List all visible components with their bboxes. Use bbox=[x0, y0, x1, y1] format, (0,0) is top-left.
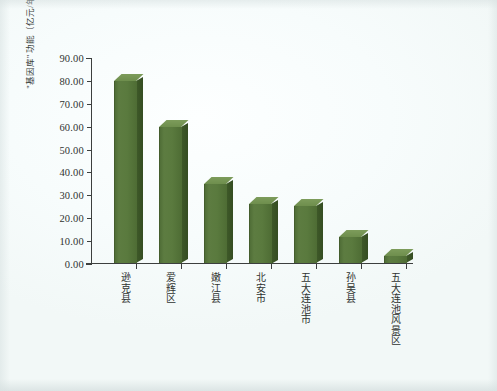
bar[interactable] bbox=[294, 206, 316, 263]
y-axis-tick bbox=[87, 81, 91, 82]
bar[interactable] bbox=[339, 237, 361, 263]
y-axis-tick bbox=[87, 150, 91, 151]
y-axis-tick-label: 20.00 bbox=[59, 213, 84, 224]
bar-side-face bbox=[271, 199, 278, 263]
y-axis-tick-label: 40.00 bbox=[59, 167, 84, 178]
y-axis-tick-label: 10.00 bbox=[59, 236, 84, 247]
x-axis-tick bbox=[181, 264, 182, 269]
x-axis-tick bbox=[271, 264, 272, 269]
x-axis-category-label: 逊克县 bbox=[119, 272, 131, 304]
y-axis-tick bbox=[86, 58, 92, 59]
bar-front-face bbox=[249, 204, 272, 264]
y-axis-tick bbox=[87, 195, 91, 196]
x-axis-category-label: 嫩江县 bbox=[209, 272, 221, 304]
y-axis-tick-label: 90.00 bbox=[59, 53, 84, 64]
y-axis-tick bbox=[86, 264, 92, 265]
y-axis-tick-label: 0.00 bbox=[65, 259, 84, 270]
x-axis-tick bbox=[226, 264, 227, 269]
bar[interactable] bbox=[114, 81, 136, 263]
bar[interactable] bbox=[159, 127, 181, 263]
bar-front-face bbox=[294, 206, 317, 263]
y-axis-tick bbox=[87, 127, 91, 128]
bar-front-face bbox=[204, 184, 227, 263]
y-axis-tick-label: 30.00 bbox=[59, 190, 84, 201]
y-axis-tick-label: 60.00 bbox=[59, 121, 84, 132]
bar-front-face bbox=[159, 127, 182, 263]
x-axis-tick bbox=[361, 264, 362, 269]
bar-front-face bbox=[384, 256, 407, 263]
bar[interactable] bbox=[384, 256, 406, 263]
bar-front-face bbox=[114, 81, 137, 263]
y-axis-title: "基因库" 功能（亿元/年） bbox=[22, 0, 38, 108]
x-axis-tick bbox=[136, 264, 137, 269]
bar-side-face bbox=[226, 180, 233, 263]
x-axis-category-label: 五大连池市 bbox=[299, 272, 311, 325]
bar-side-face bbox=[316, 202, 323, 263]
y-axis-tick bbox=[87, 218, 91, 219]
bar-chart: "基因库" 功能（亿元/年） 90.00 80.00 70.00 60.00 bbox=[0, 0, 497, 391]
y-axis-tick-label: 80.00 bbox=[59, 75, 84, 86]
x-axis-tick bbox=[406, 264, 407, 269]
bar-side-face bbox=[181, 123, 188, 263]
x-axis-category-label: 五大连池风景区 bbox=[389, 272, 401, 346]
y-axis-tick bbox=[87, 104, 91, 105]
y-axis-line bbox=[91, 58, 92, 264]
bar-side-face bbox=[136, 77, 143, 263]
x-axis-category-label: 爱辉区 bbox=[164, 272, 176, 304]
bar[interactable] bbox=[249, 204, 271, 264]
x-axis-category-label: 北安市 bbox=[254, 272, 266, 304]
x-axis-tick bbox=[316, 264, 317, 269]
plot-area: 90.00 80.00 70.00 60.00 50.00 40.00 bbox=[91, 58, 411, 264]
y-axis-tick-label: 70.00 bbox=[59, 98, 84, 109]
x-axis-category-label: 孙吴县 bbox=[344, 272, 356, 304]
scanned-page: "基因库" 功能（亿元/年） 90.00 80.00 70.00 60.00 bbox=[0, 0, 497, 391]
bar[interactable] bbox=[204, 184, 226, 263]
y-axis-tick bbox=[87, 172, 91, 173]
y-axis-tick bbox=[87, 241, 91, 242]
y-axis-tick-label: 50.00 bbox=[59, 144, 84, 155]
bar-side-face bbox=[361, 233, 368, 263]
bar-front-face bbox=[339, 237, 362, 263]
